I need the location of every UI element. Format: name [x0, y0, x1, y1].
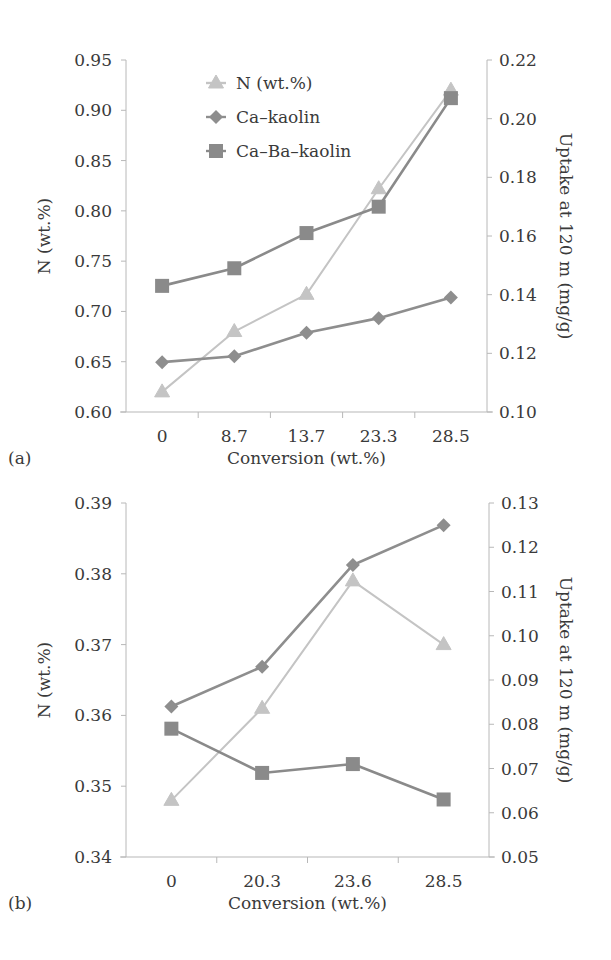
y-left-tick-label: 0.75: [74, 251, 112, 271]
y-right-tick-label: 0.20: [499, 109, 537, 129]
y-right-axis-title: Uptake at 120 m (mg/g): [556, 577, 576, 784]
triangle-marker: [345, 573, 360, 586]
y-left-tick-label: 0.85: [74, 151, 112, 171]
y-left-axis-title: N (wt.%): [34, 198, 54, 274]
y-right-tick-label: 0.22: [499, 50, 537, 70]
legend-label: Ca–kaolin: [236, 107, 320, 127]
chart-panel-a: 0.600.650.700.750.800.850.900.950.100.12…: [8, 50, 576, 468]
y-right-axis-title: Uptake at 120 m (mg/g): [556, 133, 576, 340]
y-right-tick-label: 0.18: [499, 167, 537, 187]
diamond-marker: [164, 700, 178, 714]
x-tick-label: 0: [166, 871, 177, 891]
x-tick-label: 20.3: [243, 871, 281, 891]
square-icon: [209, 144, 223, 158]
square-marker: [300, 226, 314, 240]
y-right-tick-label: 0.16: [499, 226, 537, 246]
y-left-tick-label: 0.39: [74, 493, 112, 513]
y-right-tick-label: 0.06: [501, 803, 539, 823]
chart-panel-b: 0.340.350.360.370.380.390.050.060.070.08…: [8, 493, 576, 913]
y-right-tick-label: 0.07: [501, 759, 539, 779]
x-tick-label: 28.5: [432, 426, 470, 446]
panel-letter: (a): [8, 448, 31, 468]
series-diamond: [164, 518, 450, 713]
diamond-marker: [437, 518, 451, 532]
y-left-tick-label: 0.37: [74, 635, 112, 655]
square-marker: [372, 200, 386, 214]
y-right-tick-label: 0.12: [499, 343, 537, 363]
y-right-tick-label: 0.14: [499, 285, 537, 305]
y-right-tick-label: 0.12: [501, 537, 539, 557]
x-tick-label: 8.7: [221, 426, 248, 446]
legend-item: Ca–kaolin: [206, 107, 320, 127]
y-left-tick-label: 0.90: [74, 100, 112, 120]
x-tick-label: 28.5: [425, 871, 463, 891]
diamond-marker: [227, 349, 241, 363]
x-tick-label: 23.6: [334, 871, 372, 891]
x-tick-label: 23.3: [360, 426, 398, 446]
square-marker: [437, 792, 451, 806]
x-tick-label: 0: [157, 426, 168, 446]
y-right-tick-label: 0.09: [501, 670, 539, 690]
y-left-tick-label: 0.34: [74, 847, 112, 867]
series-triangle: [164, 573, 451, 805]
figure: 0.600.650.700.750.800.850.900.950.100.12…: [0, 0, 611, 960]
diamond-icon: [209, 110, 223, 124]
square-marker: [346, 757, 360, 771]
legend-item: N (wt.%): [206, 73, 312, 93]
y-left-tick-label: 0.65: [74, 352, 112, 372]
triangle-marker: [155, 384, 170, 397]
y-left-tick-label: 0.36: [74, 705, 112, 725]
triangle-icon: [209, 75, 224, 88]
square-marker: [155, 279, 169, 293]
x-axis-title: Conversion (wt.%): [228, 893, 387, 913]
square-marker: [444, 91, 458, 105]
diamond-marker: [444, 291, 458, 305]
y-left-tick-label: 0.70: [74, 301, 112, 321]
y-right-tick-label: 0.08: [501, 714, 539, 734]
series-diamond: [155, 291, 458, 370]
y-left-tick-label: 0.38: [74, 564, 112, 584]
x-tick-label: 13.7: [288, 426, 326, 446]
square-marker: [164, 722, 178, 736]
square-marker: [255, 766, 269, 780]
legend-item: Ca–Ba–kaolin: [206, 141, 351, 161]
y-left-tick-label: 0.35: [74, 776, 112, 796]
y-right-tick-label: 0.13: [501, 493, 539, 513]
y-left-tick-label: 0.80: [74, 201, 112, 221]
panel-letter: (b): [8, 893, 32, 913]
legend-label: Ca–Ba–kaolin: [236, 141, 351, 161]
diamond-marker: [155, 355, 169, 369]
y-right-tick-label: 0.10: [499, 402, 537, 422]
legend-label: N (wt.%): [236, 73, 312, 93]
diamond-marker: [300, 326, 314, 340]
legend: N (wt.%)Ca–kaolinCa–Ba–kaolin: [206, 73, 351, 161]
y-left-tick-label: 0.60: [74, 402, 112, 422]
square-marker: [227, 261, 241, 275]
y-left-tick-label: 0.95: [74, 50, 112, 70]
y-right-tick-label: 0.10: [501, 626, 539, 646]
diamond-marker: [372, 311, 386, 325]
x-axis-title: Conversion (wt.%): [227, 448, 386, 468]
y-right-tick-label: 0.05: [501, 847, 539, 867]
y-left-axis-title: N (wt.%): [34, 642, 54, 718]
triangle-marker: [436, 637, 451, 650]
triangle-marker: [227, 324, 242, 337]
y-right-tick-label: 0.11: [501, 582, 539, 602]
